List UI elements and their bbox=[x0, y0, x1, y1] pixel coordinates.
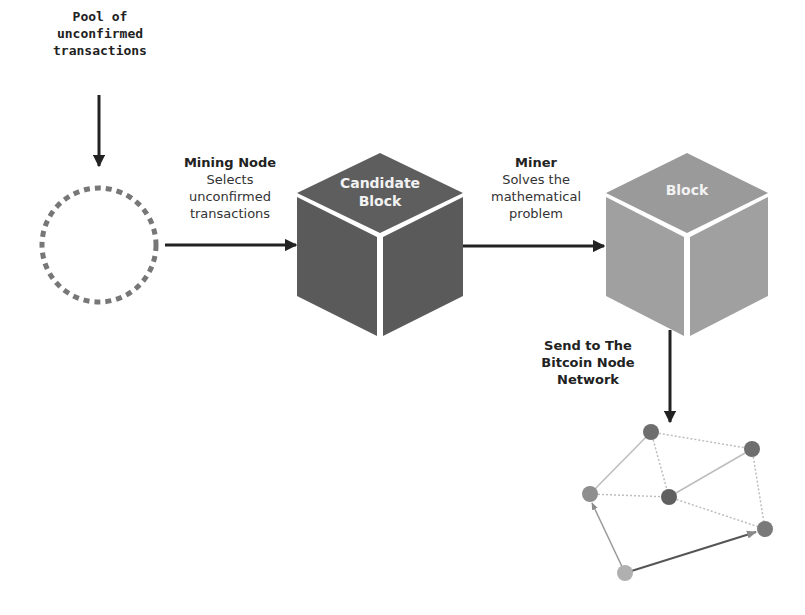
network-node-icon bbox=[744, 441, 760, 457]
network-node-icon bbox=[582, 486, 598, 502]
block-cube-icon: Block bbox=[606, 153, 768, 336]
network-node-icon bbox=[757, 521, 773, 537]
network-node-icon bbox=[661, 489, 677, 505]
network-node-icon bbox=[617, 565, 633, 581]
diagram-canvas: Candidate Block Block bbox=[0, 0, 805, 615]
network-node-icon bbox=[643, 424, 659, 440]
candidate-block-cube-icon: Candidate Block bbox=[297, 153, 463, 336]
transaction-pool-circle bbox=[42, 188, 156, 302]
candidate-block-text-1: Candidate bbox=[340, 175, 420, 191]
candidate-block-text-2: Block bbox=[359, 193, 402, 209]
network-edges bbox=[590, 432, 765, 573]
block-text: Block bbox=[666, 182, 709, 198]
